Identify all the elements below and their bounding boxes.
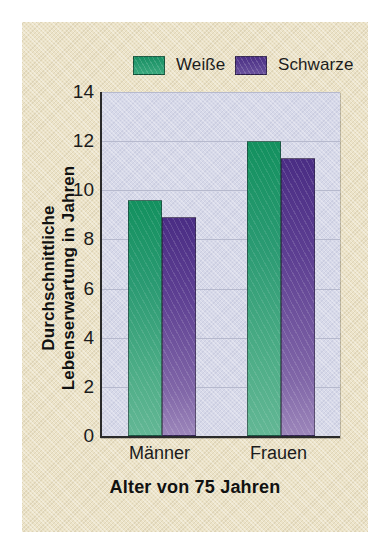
bar-frauen-weiße	[247, 141, 281, 436]
legend-label-weisse: Weiße	[176, 55, 225, 75]
plot-area	[100, 92, 340, 438]
chart-figure: Weiße Schwarze 02468101214 MännerFrauen …	[0, 0, 392, 555]
x-axis-tick-labels: MännerFrauen	[100, 443, 338, 469]
legend-swatch-weisse	[133, 56, 165, 75]
y-axis-title: Durchschnittliche Lebenserwartung in Jah…	[39, 113, 79, 443]
bar-frauen-schwarze	[281, 158, 315, 436]
y-axis-title-line-2: Lebenserwartung in Jahren	[59, 113, 79, 443]
bar-männer-schwarze	[162, 217, 196, 436]
x-axis-title: Alter von 75 Jahren	[22, 477, 368, 498]
legend-label-schwarze: Schwarze	[278, 55, 353, 75]
gridline	[102, 92, 340, 93]
y-axis-tick-label: 14	[60, 81, 94, 103]
y-axis-title-line-1: Durchschnittliche	[39, 113, 59, 443]
legend-item-weisse: Weiße	[133, 52, 225, 78]
x-axis-tick-label: Frauen	[250, 443, 307, 464]
chart-legend: Weiße Schwarze	[100, 52, 360, 78]
gridline	[102, 141, 340, 142]
legend-swatch-schwarze	[235, 56, 267, 75]
x-axis-tick-label: Männer	[129, 443, 190, 464]
bar-männer-weiße	[128, 200, 162, 436]
legend-item-schwarze: Schwarze	[235, 52, 353, 78]
